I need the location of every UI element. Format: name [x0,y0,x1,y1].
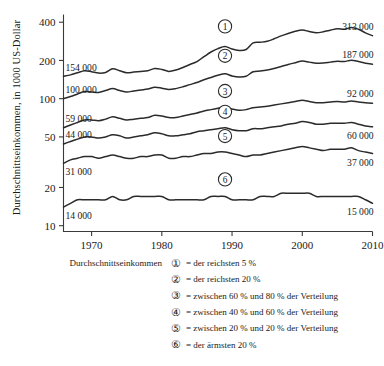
series-line-6 [64,193,373,207]
y-axis-tick-label: 50 [45,131,57,143]
legend-row: ⑥ = der ärmsten 20 % [0,336,384,352]
series-marker-6: 6 [218,173,231,186]
y-axis-tick-label: 100 [39,93,56,105]
legend-marker-3: ③ [168,290,183,301]
series-marker-2: 2 [218,49,231,62]
x-axis-tick-label: 2010 [362,239,384,251]
legend-text-2: = der reichsten 20 % [183,274,261,284]
end-value-label-4: 60 000 [347,130,374,141]
svg-text:2: 2 [223,51,228,61]
end-value-label-3: 92 000 [347,88,374,99]
end-value-label-2: 187 000 [342,49,373,60]
y-axis-tick-label: 400 [39,16,56,28]
legend-marker-2: ② [168,274,183,285]
x-axis-tick-label: 1980 [151,239,174,251]
legend-text-4: = zwischen 40 % und 60 % der Verteilung [183,307,338,317]
end-value-label-5: 37 000 [347,157,374,168]
start-value-label-5: 31 000 [66,166,93,177]
series-marker-5: 5 [218,129,231,142]
series-marker-4: 4 [218,105,231,118]
x-axis-tick-label: 2000 [291,239,314,251]
legend-caption: Durchschnittseinkommen [0,258,168,268]
legend-row: ② = der reichsten 20 % [0,271,384,287]
legend-marker-1: ① [168,258,183,269]
legend-text-6: = der ärmsten 20 % [183,340,257,350]
series-line-4 [64,122,373,144]
start-value-label-2: 100 000 [66,84,97,95]
legend-text-3: = zwischen 60 % und 80 % der Verteilung [183,291,338,301]
y-axis-tick-label: 10 [45,220,57,232]
svg-text:1: 1 [223,22,228,32]
start-value-label-1: 154 000 [66,62,97,73]
end-value-label-6: 15 000 [347,206,374,217]
series-marker-3: 3 [218,84,231,97]
legend-text-1: = der reichsten 5 % [183,258,256,268]
x-axis-tick-label: 1970 [81,239,104,251]
legend-row: Durchschnittseinkommen ① = der reichsten… [0,255,384,271]
plot-frame [64,15,373,232]
svg-text:6: 6 [223,175,228,185]
series-line-2 [64,60,373,99]
start-value-label-4: 44 000 [66,129,93,140]
legend-marker-4: ④ [168,307,183,318]
series-line-5 [64,147,373,164]
svg-text:4: 4 [223,107,228,117]
legend-row: ④ = zwischen 40 % und 60 % der Verteilun… [0,304,384,320]
y-axis-tick-label: 200 [39,55,56,67]
legend-row: ③ = zwischen 60 % und 80 % der Verteilun… [0,288,384,304]
end-value-label-1: 313 000 [342,21,373,32]
legend-marker-5: ⑤ [168,323,183,334]
legend-marker-6: ⑥ [168,339,183,350]
x-axis-tick-label: 1990 [221,239,244,251]
start-value-label-6: 14 000 [66,210,93,221]
chart-legend: Durchschnittseinkommen ① = der reichsten… [0,255,384,353]
series-marker-1: 1 [218,20,231,33]
legend-text-5: = zwischen 20 % und 20 % der Verteilung [183,323,338,333]
legend-row: ⑤ = zwischen 20 % und 20 % der Verteilun… [0,320,384,336]
series-line-1 [64,27,373,76]
svg-text:5: 5 [223,132,228,142]
chart-figure: Durchschnittseinkommen, in 1000 US-Dolla… [0,0,384,366]
y-axis-tick-label: 20 [45,182,57,194]
svg-text:3: 3 [223,87,228,97]
start-value-label-3: 59 000 [66,113,93,124]
